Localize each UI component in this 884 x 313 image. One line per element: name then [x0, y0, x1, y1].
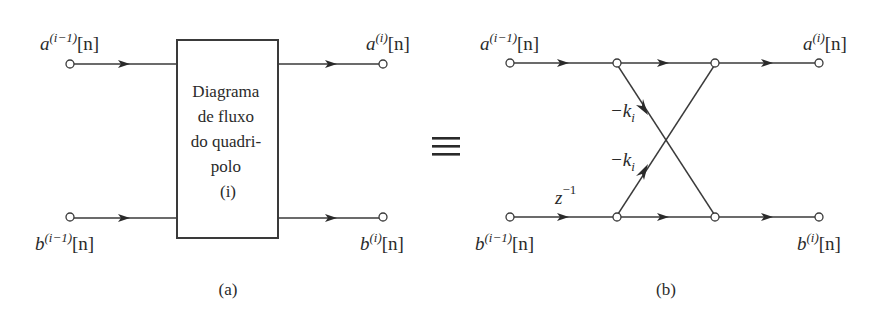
figure-b: a(i−1)[n] −ki −ki	[475, 30, 847, 299]
output-b-label: b(i)[n]	[797, 230, 841, 254]
input-node-b	[66, 213, 74, 221]
output-node-a	[815, 59, 823, 67]
caption-b: (b)	[656, 280, 676, 299]
sum-node	[711, 59, 719, 67]
equivalence-icon	[432, 137, 460, 156]
output-a-label: a(i)[n]	[803, 30, 847, 54]
figure-a: a(i−1)[n] b(i−1)[n] Diagrama de fluxo do…	[35, 30, 410, 299]
input-b-label: b(i−1)[n]	[475, 230, 534, 254]
caption-a: (a)	[219, 280, 238, 299]
input-node-a	[506, 59, 514, 67]
branch-node	[613, 59, 621, 67]
output-b-label: b(i)[n]	[360, 230, 404, 254]
input-node-a	[66, 60, 74, 68]
input-node-b	[506, 213, 514, 221]
sum-node	[711, 213, 719, 221]
coefficient-label-top: −ki	[610, 100, 635, 125]
coefficient-label-bottom: −ki	[610, 149, 635, 174]
delay-label: z−1	[554, 182, 576, 208]
output-a-label: a(i)[n]	[366, 30, 410, 54]
input-a-label: a(i−1)[n]	[480, 30, 539, 54]
arrow-down-right-icon	[636, 99, 648, 115]
output-node-b	[815, 213, 823, 221]
branch-node	[613, 213, 621, 221]
input-a-label: a(i−1)[n]	[40, 30, 99, 54]
output-node-a	[379, 60, 387, 68]
input-b-label: b(i−1)[n]	[35, 230, 94, 254]
output-node-b	[379, 213, 387, 221]
